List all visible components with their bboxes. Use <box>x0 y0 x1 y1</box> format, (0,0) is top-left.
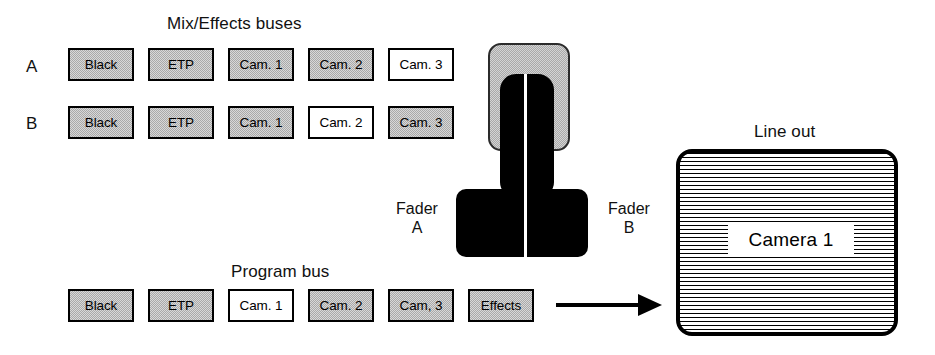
program-bus-button-effects[interactable]: Effects <box>468 289 534 322</box>
fader-a-label-line1: Fader <box>396 200 438 217</box>
me-bus-b-button-cam-2[interactable]: Cam. 2 <box>308 106 374 139</box>
me-bus-a-button-cam-2[interactable]: Cam. 2 <box>308 48 374 81</box>
me-bus-a-button-black[interactable]: Black <box>68 48 134 81</box>
me-bus-b-button-cam-1[interactable]: Cam. 1 <box>228 106 294 139</box>
program-bus-button-etp[interactable]: ETP <box>148 289 214 322</box>
line-out-monitor: Camera 1 <box>676 149 898 336</box>
mix-effects-title: Mix/Effects buses <box>167 14 302 34</box>
switcher-diagram: Mix/Effects buses A Black ETP Cam. 1 Cam… <box>0 0 935 355</box>
output-arrow-shaft <box>556 303 640 307</box>
program-bus-button-cam-2[interactable]: Cam. 2 <box>308 289 374 322</box>
bus-row-label-a: A <box>26 57 37 77</box>
fader-b-label-line2: B <box>624 219 635 236</box>
program-bus-title: Program bus <box>231 262 329 282</box>
line-out-screen-caption: Camera 1 <box>728 225 854 255</box>
fader-stem[interactable] <box>500 74 554 198</box>
fader-center-split <box>524 74 527 257</box>
fader-a-label: Fader A <box>386 199 448 237</box>
me-bus-b-button-etp[interactable]: ETP <box>148 106 214 139</box>
fader-b-label: Fader B <box>598 199 660 237</box>
program-bus-button-cam-3[interactable]: Cam, 3 <box>388 289 454 322</box>
line-out-title: Line out <box>754 122 815 142</box>
bus-row-label-b: B <box>26 114 37 134</box>
program-bus-button-cam-1[interactable]: Cam. 1 <box>228 289 294 322</box>
fader-handle-base[interactable] <box>456 189 588 257</box>
program-bus-button-black[interactable]: Black <box>68 289 134 322</box>
me-bus-a-button-cam-3[interactable]: Cam. 3 <box>388 48 454 81</box>
fader-b-label-line1: Fader <box>608 200 650 217</box>
me-bus-a-button-cam-1[interactable]: Cam. 1 <box>228 48 294 81</box>
me-bus-b-button-cam-3[interactable]: Cam. 3 <box>388 106 454 139</box>
output-arrow-head-icon <box>638 294 662 316</box>
me-bus-b-button-black[interactable]: Black <box>68 106 134 139</box>
fader-a-label-line2: A <box>412 219 423 236</box>
me-bus-a-button-etp[interactable]: ETP <box>148 48 214 81</box>
